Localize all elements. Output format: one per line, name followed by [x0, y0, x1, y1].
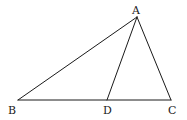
triangle-diagram: A B C D — [0, 0, 187, 120]
label-d: D — [103, 104, 112, 117]
segment-ad — [107, 17, 137, 100]
segments-group — [18, 17, 171, 100]
label-b: B — [8, 104, 16, 117]
segment-ac — [137, 17, 171, 100]
label-a: A — [131, 4, 141, 17]
segment-ab — [18, 17, 137, 100]
label-c: C — [168, 104, 176, 117]
